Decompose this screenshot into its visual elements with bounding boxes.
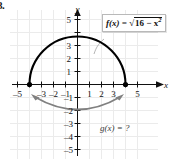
- y-tick-label--2: –2: [63, 106, 73, 116]
- x-tick-label-3: 3: [111, 89, 116, 99]
- x-tick-label--3: –3: [36, 89, 47, 99]
- y-tick-label--5: –5: [63, 145, 74, 155]
- x-tick-label--5: –5: [12, 89, 23, 99]
- f-function-label: f(x) = √16 − x2: [102, 14, 166, 32]
- y-tick-label--4: –4: [63, 132, 74, 142]
- f-endpoint-left: [27, 82, 32, 87]
- coordinate-graph: –5 –3 –2 –1 1 2 3 5 5 3 2 1 –1 –2 –3 –4 …: [8, 6, 172, 163]
- y-tick-label--3: –3: [63, 119, 74, 129]
- y-axis-label: y: [75, 6, 80, 14]
- x-tick-label-1: 1: [87, 89, 92, 99]
- y-tick-label-3: 3: [67, 41, 72, 51]
- figure-page: 8.: [0, 0, 172, 163]
- x-axis-arrow: [156, 81, 164, 88]
- y-tick-label-2: 2: [67, 54, 72, 64]
- y-tick-label-5: 5: [67, 15, 72, 25]
- radicand-exponent: 2: [158, 16, 161, 23]
- x-tick-label-5: 5: [135, 89, 140, 99]
- radicand-base: 16 − x: [135, 18, 158, 28]
- f-label-text: f(x) =: [106, 18, 129, 28]
- radical-expression: √16 − x2: [129, 16, 162, 29]
- x-tick-label-2: 2: [99, 89, 104, 99]
- y-tick-label-1: 1: [67, 67, 72, 77]
- radicand: 16 − x2: [134, 17, 162, 29]
- f-endpoint-right: [123, 82, 128, 87]
- g-function-label: g(x) = ?: [100, 123, 130, 134]
- x-axis-label: x: [163, 80, 168, 90]
- x-tick-label--2: –2: [48, 89, 58, 99]
- y-tick-label--1: –1: [63, 93, 73, 103]
